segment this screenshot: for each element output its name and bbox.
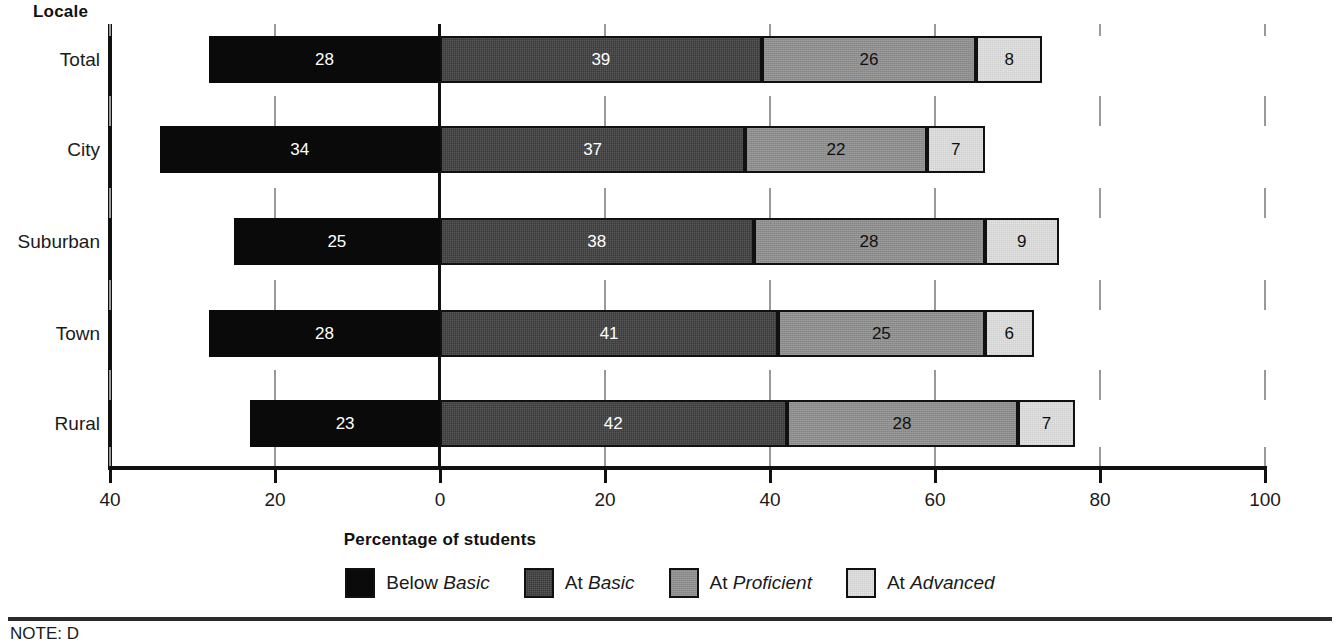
x-tick: [1099, 466, 1102, 483]
gridline-dash: [1264, 188, 1266, 218]
bar-value-label: 28: [315, 325, 334, 342]
gridline-dash: [274, 24, 276, 36]
bar-value-label: 22: [827, 141, 846, 158]
legend-swatch-at-advanced: [846, 568, 876, 598]
x-tick: [604, 466, 607, 483]
gridline-dash: [109, 188, 111, 218]
bar-value-label: 6: [1005, 325, 1014, 342]
gridline-dash: [109, 24, 111, 36]
gridline-dash: [1099, 188, 1101, 218]
x-tick-label: 20: [235, 489, 315, 511]
gridline-dash: [769, 447, 771, 466]
gridline-dash: [604, 24, 606, 36]
gridline-dash: [1099, 96, 1101, 126]
gridline-dash: [274, 280, 276, 310]
legend-label-at-proficient: At Proficient: [710, 572, 812, 594]
gridline-dash: [1099, 370, 1101, 400]
bar-value-label: 7: [1042, 415, 1051, 432]
bar-value-label: 28: [860, 233, 879, 250]
x-tick-label: 40: [70, 489, 150, 511]
footer-divider: [8, 617, 1332, 621]
gridline-dash: [769, 96, 771, 126]
bar-value-label: 7: [951, 141, 960, 158]
bar-segment-city-at-advanced: 7: [927, 126, 985, 173]
bar-segment-city-at-proficient: 22: [745, 126, 927, 173]
gridline-dash: [934, 370, 936, 400]
bar-segment-suburban-below-basic: 25: [234, 218, 440, 265]
gridline-dash: [1099, 24, 1101, 36]
footer-note: NOTE: D: [10, 624, 79, 643]
bar-segment-total-below-basic: 28: [209, 36, 440, 83]
value-axis-line: [108, 466, 1267, 470]
gridline-dash: [274, 447, 276, 466]
x-tick-label: 60: [895, 489, 975, 511]
gridline-dash: [1264, 24, 1266, 36]
bar-segment-city-at-basic: 37: [440, 126, 745, 173]
legend-item-at-proficient[interactable]: At Proficient: [669, 568, 812, 598]
legend-swatch-at-proficient: [669, 568, 699, 598]
bar-value-label: 34: [290, 141, 309, 158]
bar-value-label: 28: [893, 415, 912, 432]
bar-row-town: 2841256: [0, 310, 1340, 357]
bar-segment-total-at-basic: 39: [440, 36, 762, 83]
legend-item-below-basic[interactable]: Below Basic: [345, 568, 490, 598]
gridline-dash: [604, 280, 606, 310]
bar-segment-total-at-advanced: 8: [976, 36, 1042, 83]
gridline-dash: [1264, 370, 1266, 400]
bar-segment-rural-at-proficient: 28: [787, 400, 1018, 447]
gridline-dash: [604, 370, 606, 400]
bar-value-label: 42: [604, 415, 623, 432]
bar-segment-city-below-basic: 34: [160, 126, 441, 173]
bar-value-label: 26: [860, 51, 879, 68]
x-tick: [769, 466, 772, 483]
bar-row-total: 2839268: [0, 36, 1340, 83]
chart-legend: Below BasicAt BasicAt ProficientAt Advan…: [0, 568, 1340, 598]
gridline-dash: [769, 280, 771, 310]
bar-segment-suburban-at-advanced: 9: [985, 218, 1059, 265]
gridline-dash: [1099, 280, 1101, 310]
x-tick: [274, 466, 277, 483]
bar-value-label: 25: [872, 325, 891, 342]
gridline-dash: [769, 370, 771, 400]
bar-value-label: 9: [1017, 233, 1026, 250]
bar-segment-town-at-basic: 41: [440, 310, 778, 357]
gridline-dash: [934, 96, 936, 126]
bar-segment-total-at-proficient: 26: [762, 36, 977, 83]
x-tick: [1264, 466, 1267, 483]
gridline-dash: [769, 188, 771, 218]
bar-segment-rural-below-basic: 23: [250, 400, 440, 447]
bar-row-city: 3437227: [0, 126, 1340, 173]
gridline-dash: [109, 447, 111, 466]
bar-segment-rural-at-basic: 42: [440, 400, 787, 447]
bar-value-label: 28: [315, 51, 334, 68]
bar-segment-suburban-at-proficient: 28: [754, 218, 985, 265]
legend-item-at-basic[interactable]: At Basic: [524, 568, 635, 598]
gridline-dash: [109, 96, 111, 126]
gridline-dash: [109, 280, 111, 310]
legend-label-at-basic: At Basic: [565, 572, 635, 594]
legend-item-at-advanced[interactable]: At Advanced: [846, 568, 995, 598]
bar-segment-town-below-basic: 28: [209, 310, 440, 357]
bar-value-label: 8: [1005, 51, 1014, 68]
x-tick-label: 40: [730, 489, 810, 511]
gridline-dash: [1264, 447, 1266, 466]
gridline-dash: [934, 447, 936, 466]
gridline-dash: [1264, 280, 1266, 310]
gridline-dash: [274, 96, 276, 126]
bar-value-label: 41: [600, 325, 619, 342]
gridline-dash: [274, 370, 276, 400]
x-tick-label: 80: [1060, 489, 1140, 511]
gridline-dash: [604, 447, 606, 466]
x-tick: [439, 466, 442, 483]
gridline-dash: [604, 96, 606, 126]
bar-segment-town-at-proficient: 25: [778, 310, 984, 357]
bar-segment-rural-at-advanced: 7: [1018, 400, 1076, 447]
x-tick-label: 0: [400, 489, 480, 511]
x-tick-label: 100: [1225, 489, 1305, 511]
bar-value-label: 25: [327, 233, 346, 250]
bar-row-rural: 2342287: [0, 400, 1340, 447]
locale-axis-header: Locale: [33, 2, 88, 22]
legend-label-below-basic: Below Basic: [386, 572, 490, 594]
